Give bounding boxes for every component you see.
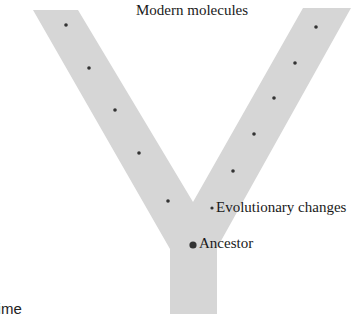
y-branch-shape: [33, 8, 351, 314]
change-dot: [113, 108, 117, 112]
change-dot: [87, 66, 91, 70]
evolutionary-changes-label: Evolutionary changes: [216, 200, 346, 215]
change-dot: [231, 169, 235, 173]
change-dot: [166, 199, 170, 203]
change-dot: [314, 25, 318, 29]
change-dot: [137, 151, 141, 155]
time-axis-label: Time: [0, 301, 22, 314]
ancestor-dot: [189, 241, 196, 248]
change-dot: [252, 132, 256, 136]
modern-molecules-label: Modern molecules: [136, 3, 248, 18]
change-dot: [293, 61, 297, 65]
evolutionary-change-marker-dot: [210, 206, 213, 209]
y-tree-svg: [0, 0, 362, 314]
change-dot: [64, 23, 68, 27]
change-dot: [272, 96, 276, 100]
phylogenetic-y-diagram: Modern molecules Evolutionary changes An…: [0, 0, 362, 314]
ancestor-label: Ancestor: [199, 236, 253, 251]
